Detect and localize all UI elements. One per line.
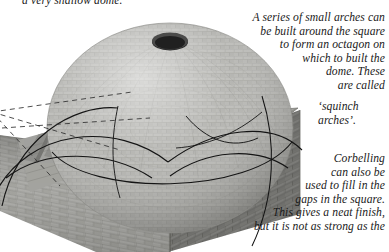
illustration-page: a very shallow dome. A series of small a… [0, 0, 389, 252]
annotation-squinch-arches-name: ‘squinch arches’. [318, 100, 388, 127]
annotation-squinch-explanation: A series of small arches can be built ar… [180, 11, 385, 93]
annotation-shallow-dome: a very shallow dome. [22, 0, 182, 8]
annotation-corbelling: Corbelling can also be used to fill in t… [185, 152, 385, 234]
